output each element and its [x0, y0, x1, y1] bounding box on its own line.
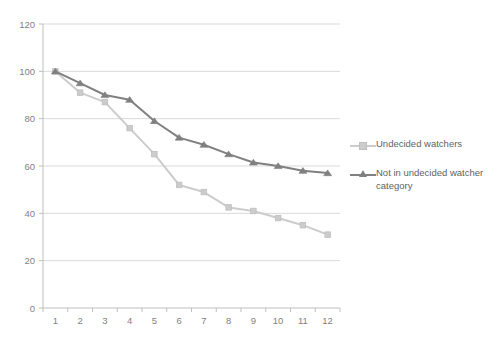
legend-key-square-icon — [350, 139, 376, 153]
x-tick-label: 5 — [152, 315, 157, 326]
data-point-marker — [275, 215, 281, 221]
series-line-0 — [55, 71, 327, 234]
legend-item-not-in-undecided-watcher-category[interactable]: Not in undecided watcher category — [350, 167, 500, 192]
y-tick-label: 0 — [30, 303, 35, 314]
x-tick-label: 10 — [273, 315, 284, 326]
data-point-marker — [176, 182, 182, 188]
gridlines-group — [43, 24, 340, 261]
x-tick-label: 3 — [102, 315, 107, 326]
x-tick-label: 9 — [251, 315, 256, 326]
y-axis-tick-labels: 020406080100120 — [19, 19, 35, 314]
x-tick-label: 4 — [127, 315, 132, 326]
series-line-1 — [55, 71, 327, 173]
data-point-marker — [77, 90, 83, 96]
x-tick-label: 6 — [176, 315, 181, 326]
y-tick-label: 60 — [24, 161, 35, 172]
y-tick-label: 80 — [24, 113, 35, 124]
data-point-marker — [251, 208, 257, 214]
data-point-marker — [127, 125, 133, 131]
chart-legend: Undecided watchers Not in undecided watc… — [350, 138, 500, 206]
x-tick-label: 12 — [322, 315, 333, 326]
y-tick-label: 120 — [19, 19, 35, 30]
legend-label-undecided-watchers: Undecided watchers — [376, 138, 462, 151]
x-axis-tick-labels: 123456789101112 — [53, 315, 333, 326]
legend-label-not-in-undecided-watcher-category: Not in undecided watcher category — [376, 167, 496, 192]
data-series-group — [51, 68, 331, 237]
data-point-marker — [152, 151, 158, 157]
axes-group — [39, 24, 340, 312]
chart-container: 020406080100120 123456789101112 Undecide… — [0, 0, 504, 349]
x-tick-label: 8 — [226, 315, 231, 326]
y-tick-label: 20 — [24, 255, 35, 266]
y-tick-label: 40 — [24, 208, 35, 219]
x-tick-label: 2 — [77, 315, 82, 326]
data-point-marker — [226, 205, 232, 211]
data-point-marker — [300, 222, 306, 228]
data-point-marker — [201, 189, 207, 195]
legend-key-triangle-icon — [350, 168, 376, 182]
data-point-marker — [102, 99, 108, 105]
x-tick-label: 11 — [298, 315, 308, 326]
data-point-marker — [325, 232, 331, 238]
y-tick-label: 100 — [19, 66, 35, 77]
x-tick-label: 1 — [53, 315, 58, 326]
x-tick-label: 7 — [201, 315, 206, 326]
legend-item-undecided-watchers[interactable]: Undecided watchers — [350, 138, 500, 153]
